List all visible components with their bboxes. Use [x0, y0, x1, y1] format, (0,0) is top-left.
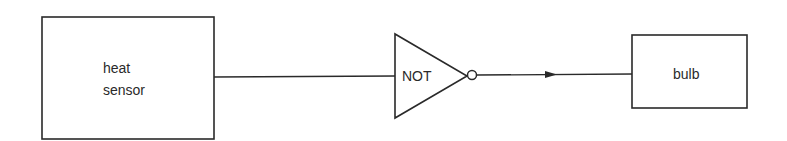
logic-diagram: heat sensor NOT bulb: [0, 0, 787, 141]
wire-sensor-to-not: [214, 76, 395, 77]
inversion-bubble-icon: [468, 71, 477, 80]
not-gate: NOT: [395, 34, 477, 118]
bulb-label: bulb: [673, 66, 700, 82]
heat-sensor-label-line2: sensor: [103, 82, 145, 98]
bulb-block: bulb: [632, 35, 747, 108]
not-gate-label: NOT: [402, 68, 432, 84]
arrow-head-icon: [545, 71, 557, 78]
heat-sensor-label-line1: heat: [103, 60, 130, 76]
heat-sensor-block: heat sensor: [42, 17, 214, 139]
